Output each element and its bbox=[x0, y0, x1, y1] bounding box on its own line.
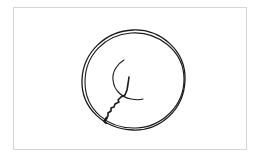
outer-circle-loop-2 bbox=[85, 33, 184, 128]
outer-circle-loop-1 bbox=[82, 30, 185, 130]
jagged-line bbox=[105, 77, 129, 122]
sketch-drawing bbox=[0, 0, 263, 159]
sketch-canvas: Hand-drawn sketch: double-stroked circle… bbox=[0, 0, 263, 159]
